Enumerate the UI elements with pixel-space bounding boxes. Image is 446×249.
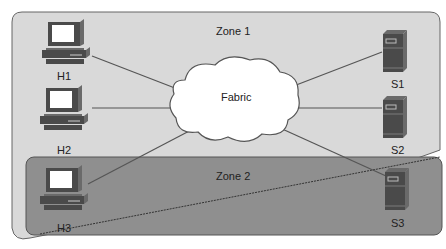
zone-2-region — [26, 157, 442, 235]
host-h3-label: H3 — [57, 222, 71, 234]
server-s2-label: S2 — [391, 144, 404, 156]
server-s1-icon — [383, 30, 407, 72]
fabric-label: Fabric — [221, 91, 252, 103]
server-s3-icon — [385, 168, 409, 210]
host-h2-icon — [40, 85, 88, 130]
host-h1-label: H1 — [57, 70, 71, 82]
zone-2-label: Zone 2 — [216, 170, 250, 182]
server-s3-label: S3 — [391, 217, 404, 229]
zone-1-label: Zone 1 — [216, 25, 250, 37]
server-s2-icon — [383, 96, 407, 138]
server-s1-label: S1 — [391, 78, 404, 90]
host-h1-icon — [42, 19, 90, 64]
host-h2-label: H2 — [57, 144, 71, 156]
host-h3-icon — [40, 165, 88, 210]
network-diagram: Zone 1 Zone 2 Fabric H1 H2 H3 S1 S2 S3 — [0, 0, 446, 249]
